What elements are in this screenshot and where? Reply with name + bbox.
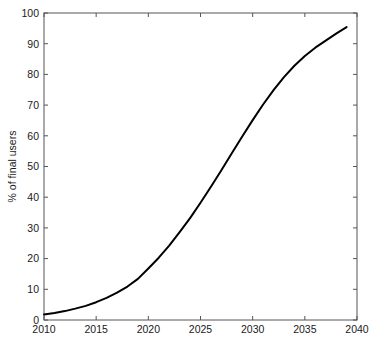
y-tick-label-20: 20 [27, 252, 39, 264]
x-tick-label-2030: 2030 [241, 323, 265, 335]
x-tick-label-2015: 2015 [84, 323, 108, 335]
y-tick-label-40: 40 [27, 191, 39, 203]
x-axis-tick-labels: 2010201520202025203020352040 [32, 323, 369, 335]
chart-figure: 2010201520202025203020352040 01020304050… [0, 0, 378, 348]
x-tick-label-2020: 2020 [137, 323, 161, 335]
x-tick-label-2040: 2040 [345, 323, 369, 335]
adoption-s-curve-chart: 2010201520202025203020352040 01020304050… [0, 0, 378, 348]
y-tick-label-50: 50 [27, 160, 39, 172]
y-tick-label-100: 100 [21, 7, 39, 19]
y-tick-label-10: 10 [27, 283, 39, 295]
y-tick-label-80: 80 [27, 68, 39, 80]
y-tick-label-90: 90 [27, 38, 39, 50]
y-axis-tick-labels: 0102030405060708090100 [21, 7, 39, 326]
y-tick-label-30: 30 [27, 222, 39, 234]
y-tick-label-60: 60 [27, 130, 39, 142]
x-tick-label-2035: 2035 [293, 323, 317, 335]
x-tick-label-2025: 2025 [189, 323, 213, 335]
y-tick-label-0: 0 [33, 314, 39, 326]
plot-area-background [44, 13, 357, 320]
y-tick-label-70: 70 [27, 99, 39, 111]
y-axis-title: % of final users [6, 131, 18, 203]
